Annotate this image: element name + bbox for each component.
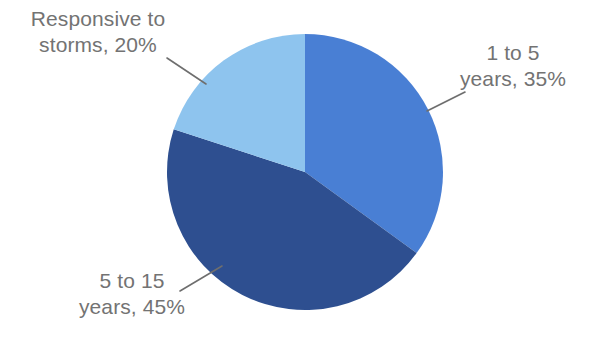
pie-chart: Responsive to storms, 20% 1 to 5 years, … [0, 0, 596, 341]
pie-label-one-to-five-years: 1 to 5 years, 35% [432, 40, 594, 92]
pie-label-five-to-fifteen-years: 5 to 15 years, 45% [44, 268, 220, 320]
leader-line-responsive-to-storms [167, 58, 206, 84]
pie-label-responsive-to-storms: Responsive to storms, 20% [8, 6, 188, 58]
leader-line-one-to-five-years [427, 92, 465, 111]
